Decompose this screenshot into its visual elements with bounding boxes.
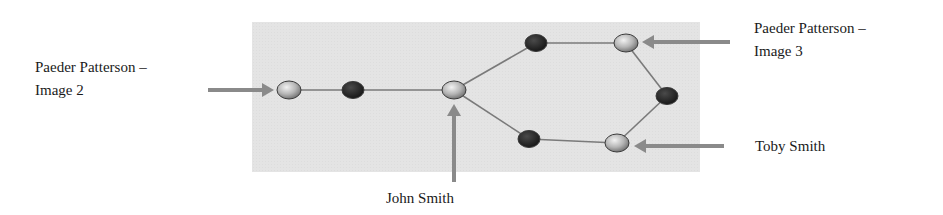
edge <box>454 90 529 139</box>
label-text: John Smith <box>386 187 454 210</box>
node-intermediate <box>518 131 540 148</box>
label-line: Image 2 <box>35 79 147 102</box>
arrows <box>208 35 730 182</box>
edge <box>454 43 536 90</box>
label-line: Paeder Patterson – <box>754 17 866 40</box>
node-paeder-image3 <box>614 34 638 52</box>
edge <box>529 139 617 143</box>
arrow-to-paeder-image2 <box>208 83 274 97</box>
label-paeder-image2: Paeder Patterson – Image 2 <box>35 56 147 102</box>
arrow-to-paeder-image3 <box>642 35 730 49</box>
node-toby-smith <box>605 134 629 152</box>
label-john-smith: John Smith <box>386 187 454 210</box>
label-line: Paeder Patterson – <box>35 56 147 79</box>
arrow-to-john-smith <box>447 104 461 182</box>
label-text: Toby Smith <box>755 135 825 158</box>
node-john-smith <box>442 81 466 99</box>
node-intermediate <box>342 82 364 99</box>
nodes <box>277 34 678 152</box>
label-line: Image 3 <box>754 40 866 63</box>
arrow-to-toby-smith <box>634 139 724 153</box>
node-paeder-image2 <box>277 81 301 99</box>
node-intermediate <box>525 35 547 52</box>
node-intermediate <box>656 88 678 105</box>
label-toby-smith: Toby Smith <box>755 135 825 158</box>
label-paeder-image3: Paeder Patterson – Image 3 <box>754 17 866 63</box>
